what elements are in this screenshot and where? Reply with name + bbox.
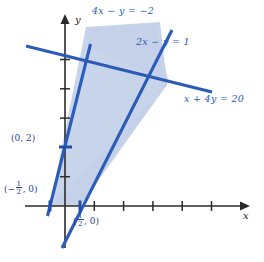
fraction-one-half: 12 [16,180,23,196]
point-label-suffix: , 0) [84,216,99,226]
label-line-4x-minus-y: 4x − y = −2 [92,5,154,16]
y-axis-arrow [61,14,70,24]
region-polygon-main [50,22,167,206]
point-label-0-2: (0, 2) [11,133,35,143]
shaded-region [50,22,168,206]
label-line-x-plus-4y: x + 4y = 20 [184,93,244,104]
graph-figure: 4x − y = −2 2x − y = 1 x + 4y = 20 y x (… [0,0,264,262]
y-axis-label: y [75,14,81,25]
point-label-prefix: (− [4,184,15,194]
point-label-prefix: ( [73,216,77,226]
x-axis-label: x [243,210,249,221]
point-label-half-0: (12, 0) [73,212,99,228]
fraction-one-half: 12 [77,212,84,228]
point-label-suffix: , 0) [23,184,38,194]
label-line-2x-minus-y: 2x − y = 1 [136,36,190,47]
coordinate-plot [0,0,264,262]
point-label-neg-half-0: (−12, 0) [4,180,38,196]
